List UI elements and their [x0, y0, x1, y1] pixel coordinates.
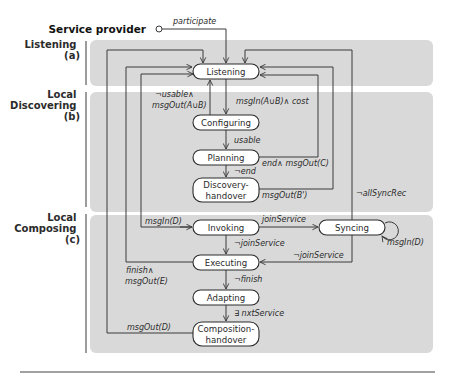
guard-not-finish: ¬finish: [234, 275, 262, 284]
guard-msgin-aub-cost: msgIn(A∪B)∧ cost: [236, 97, 309, 106]
svg-text:Syncing: Syncing: [335, 223, 369, 233]
guard-msgout-d: msgOut(D): [127, 323, 171, 332]
state-composition-handover: Composition- handover: [193, 322, 259, 346]
state-diagram: Service provider Listening (a) Local Dis…: [0, 0, 453, 378]
guard-exists-nxtservice: ∃ nxtService: [234, 309, 284, 318]
guard-participate: participate: [172, 17, 216, 26]
guard-not-joinservice-1: ¬joinService: [234, 239, 285, 248]
guard-msgin-d: msgIn(D): [145, 217, 182, 226]
guard-syncing-msgin-d: msgIn(D): [387, 238, 424, 247]
svg-text:Configuring: Configuring: [201, 118, 251, 128]
svg-text:Adapting: Adapting: [207, 293, 246, 303]
guard-end-msgout-c: end∧ msgOut(C): [262, 159, 329, 168]
guard-not-end: ¬end: [234, 167, 257, 176]
svg-text:Discovery-: Discovery-: [203, 180, 248, 190]
diagram-title: Service provider: [49, 23, 147, 35]
lane-label-composing: Local Composing (c): [14, 212, 80, 245]
state-syncing: Syncing: [319, 220, 385, 235]
initial-node-icon: [156, 26, 162, 32]
guard-usable: usable: [234, 136, 260, 145]
svg-text:handover: handover: [206, 335, 247, 345]
state-planning: Planning: [193, 150, 259, 165]
lane-label-discovering: Local Discovering (b): [10, 89, 80, 122]
svg-text:Invoking: Invoking: [208, 223, 245, 233]
state-executing: Executing: [193, 255, 259, 270]
state-discovery-handover: Discovery- handover: [193, 178, 259, 202]
svg-text:Composition-: Composition-: [198, 324, 255, 334]
state-adapting: Adapting: [193, 290, 259, 305]
svg-text:handover: handover: [206, 191, 247, 201]
guard-not-allsyncrec: ¬allSyncRec: [356, 189, 407, 198]
lane-label-listening: Listening (a): [24, 39, 80, 61]
svg-text:Planning: Planning: [207, 153, 244, 163]
guard-joinservice: joinService: [261, 215, 306, 224]
state-invoking: Invoking: [193, 220, 259, 235]
svg-text:Listening: Listening: [206, 67, 245, 77]
guard-msgout-b: msgOut(B'): [262, 191, 307, 200]
state-configuring: Configuring: [193, 115, 259, 130]
svg-text:Executing: Executing: [205, 258, 247, 268]
state-listening: Listening: [193, 64, 259, 79]
guard-not-joinservice-2: ¬joinService: [293, 251, 344, 260]
